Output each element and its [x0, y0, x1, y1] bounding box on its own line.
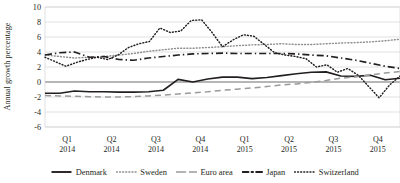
- plot-svg: -6-4-20246810: [14, 2, 400, 137]
- dotted-line-swatch: [294, 168, 315, 176]
- chart-legend: DenmarkSwedenEuro areaJapanSwitzerland: [30, 163, 380, 181]
- legend-item-japan[interactable]: Japan: [242, 168, 286, 177]
- legend-label: Switzerland: [319, 168, 359, 177]
- series-line-denmark: [45, 72, 400, 93]
- x-axis-tick-year: 2015: [356, 145, 400, 155]
- y-axis-tick-label: 2: [37, 63, 41, 72]
- plot-area: -6-4-20246810: [14, 2, 400, 137]
- x-axis-tick-quarter: Q3: [311, 135, 355, 145]
- dotted-line-swatch: [116, 168, 137, 176]
- x-axis-tick-quarter: Q4: [178, 135, 222, 145]
- y-axis-tick-label: 0: [37, 78, 41, 87]
- x-axis-tick-quarter: Q4: [356, 135, 400, 145]
- legend-item-switzerland[interactable]: Switzerland: [294, 168, 359, 177]
- x-axis-tick-quarter: Q2: [89, 135, 133, 145]
- y-axis-tick-label: 10: [33, 3, 41, 12]
- legend-item-denmark[interactable]: Denmark: [51, 168, 107, 177]
- y-axis-tick-label: 8: [37, 18, 41, 27]
- y-axis-tick-label: -6: [34, 123, 41, 132]
- x-axis-tick-year: 2014: [134, 145, 178, 155]
- x-axis-tick-year: 2014: [89, 145, 133, 155]
- x-axis-tick: Q42014: [178, 135, 222, 163]
- x-axis-tick: Q32015: [311, 135, 355, 163]
- x-axis-tick: Q42015: [356, 135, 400, 163]
- legend-label: Euro area: [200, 168, 232, 177]
- x-axis-tick: Q12015: [223, 135, 267, 163]
- y-axis-tick-label: 6: [37, 33, 41, 42]
- y-axis-tick-label: -4: [34, 108, 41, 117]
- x-axis-tick-quarter: Q3: [134, 135, 178, 145]
- dashed-line-swatch: [176, 168, 197, 176]
- x-axis-tick-year: 2014: [178, 145, 222, 155]
- x-axis-tick: Q12014: [45, 135, 89, 163]
- y-axis-tick-label: 4: [37, 48, 41, 57]
- legend-label: Japan: [266, 168, 285, 177]
- series-line-japan: [45, 52, 400, 69]
- y-axis-title: Annual growth percentage: [0, 0, 14, 133]
- x-axis-tick-year: 2015: [267, 145, 311, 155]
- x-axis-tick-labels: Q12014Q22014Q32014Q42014Q12015Q22015Q320…: [45, 135, 400, 163]
- x-axis-tick: Q22014: [89, 135, 133, 163]
- x-axis-tick: Q32014: [134, 135, 178, 163]
- y-axis-title-text: Annual growth percentage: [3, 22, 12, 110]
- legend-label: Denmark: [76, 168, 107, 177]
- legend-item-euro-area[interactable]: Euro area: [176, 168, 233, 177]
- x-axis-tick-quarter: Q1: [223, 135, 267, 145]
- series-line-sweden: [45, 39, 400, 58]
- x-axis-tick-year: 2014: [45, 145, 89, 155]
- solid-line-swatch: [51, 168, 72, 176]
- x-axis-tick: Q22015: [267, 135, 311, 163]
- dashdot-line-swatch: [242, 168, 263, 176]
- y-axis-tick-label: -2: [34, 93, 41, 102]
- legend-item-sweden[interactable]: Sweden: [116, 168, 167, 177]
- line-chart-figure: Annual growth percentage -6-4-20246810 Q…: [0, 0, 400, 183]
- x-axis-tick-year: 2015: [311, 145, 355, 155]
- x-axis-tick-year: 2015: [223, 145, 267, 155]
- legend-label: Sweden: [140, 168, 167, 177]
- x-axis-tick-quarter: Q1: [45, 135, 89, 145]
- x-axis-tick-quarter: Q2: [267, 135, 311, 145]
